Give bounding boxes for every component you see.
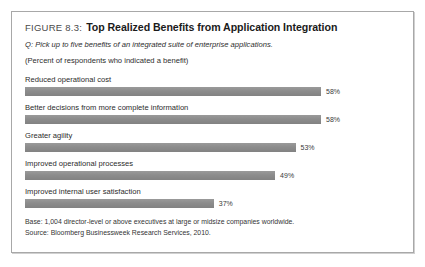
- bar-group: Better decisions from more complete info…: [25, 102, 402, 124]
- bar-category-label: Reduced operational cost: [25, 74, 402, 85]
- bar-category-label: Better decisions from more complete info…: [25, 102, 402, 113]
- bar-value-label: 49%: [280, 172, 294, 179]
- bar-row: 58%: [25, 115, 402, 124]
- bar-chart: Reduced operational cost58%Better decisi…: [25, 74, 402, 208]
- bar-fill: [25, 171, 275, 180]
- bar-category-label: Greater agility: [25, 130, 402, 141]
- bar-value-label: 37%: [219, 200, 233, 207]
- figure-footer: Base: 1,004 director-level or above exec…: [25, 217, 402, 238]
- figure-inner: FIGURE 8.3: Top Realized Benefits from A…: [25, 21, 402, 245]
- bar-group: Improved internal user satisfaction37%: [25, 186, 402, 208]
- bar-row: 37%: [25, 199, 402, 208]
- bar-fill: [25, 115, 321, 124]
- bar-value-label: 58%: [326, 116, 340, 123]
- figure-panel: FIGURE 8.3: Top Realized Benefits from A…: [11, 11, 414, 253]
- figure-unit-note: (Percent of respondents who indicated a …: [25, 56, 402, 65]
- figure-heading: FIGURE 8.3: Top Realized Benefits from A…: [25, 21, 402, 33]
- bar-fill: [25, 199, 214, 208]
- bar-value-label: 58%: [326, 88, 340, 95]
- bar-value-label: 53%: [301, 144, 315, 151]
- bar-fill: [25, 87, 321, 96]
- figure-base-note: Base: 1,004 director-level or above exec…: [25, 217, 402, 228]
- bar-group: Greater agility53%: [25, 130, 402, 152]
- bar-row: 49%: [25, 171, 402, 180]
- figure-source-note: Source: Bloomberg Businessweek Research …: [25, 228, 402, 239]
- bar-row: 53%: [25, 143, 402, 152]
- bar-row: 58%: [25, 87, 402, 96]
- figure-title: Top Realized Benefits from Application I…: [86, 21, 337, 33]
- bar-group: Improved operational processes49%: [25, 158, 402, 180]
- bar-category-label: Improved internal user satisfaction: [25, 186, 402, 197]
- bar-fill: [25, 143, 296, 152]
- bar-group: Reduced operational cost58%: [25, 74, 402, 96]
- figure-number-label: FIGURE 8.3:: [25, 22, 82, 33]
- figure-question: Q: Pick up to five benefits of an integr…: [25, 40, 402, 49]
- bar-category-label: Improved operational processes: [25, 158, 402, 169]
